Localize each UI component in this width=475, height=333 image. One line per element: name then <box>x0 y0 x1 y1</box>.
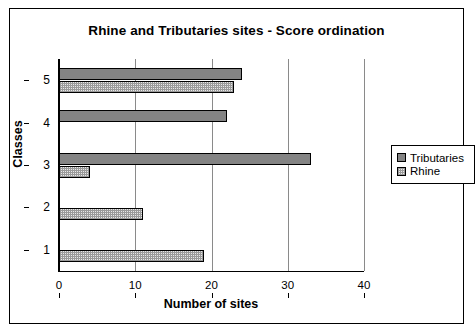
bar-tributaries-class-3 <box>59 153 311 165</box>
x-axis-label: Number of sites <box>58 297 364 311</box>
legend-swatch-tributaries-icon <box>397 153 406 162</box>
y-tick-2 <box>24 207 29 208</box>
legend-item-rhine: Rhine <box>397 165 470 177</box>
legend-label-tributaries: Tributaries <box>410 152 464 164</box>
bar-rhine-class-2 <box>59 208 143 220</box>
y-tick-label-4: 4 <box>43 116 50 130</box>
legend-label-rhine: Rhine <box>410 165 440 177</box>
y-tick-4 <box>24 123 29 124</box>
y-tick-3 <box>24 165 29 166</box>
x-tick-label-20: 20 <box>205 279 218 291</box>
y-tick-label-3: 3 <box>43 158 50 172</box>
y-tick-label-1: 1 <box>43 243 50 257</box>
chart-title: Rhine and Tributaries sites - Score ordi… <box>10 23 463 38</box>
legend-item-tributaries: Tributaries <box>397 152 470 164</box>
bar-rhine-class-5 <box>59 81 234 93</box>
y-tick-1 <box>24 250 29 251</box>
x-tick-label-30: 30 <box>281 279 294 291</box>
bar-tributaries-class-4 <box>59 110 227 122</box>
x-axis-ticks: 010203040 <box>59 271 364 293</box>
bar-tributaries-class-5 <box>59 68 242 80</box>
chart-figure: Rhine and Tributaries sites - Score ordi… <box>9 8 464 324</box>
y-tick-label-2: 2 <box>43 200 50 214</box>
legend-swatch-rhine-icon <box>397 167 406 176</box>
y-tick-5 <box>24 80 29 81</box>
plot-area: 010203040 12345 <box>58 59 364 272</box>
y-axis-ticks: 12345 <box>29 59 59 271</box>
y-tick-label-5: 5 <box>43 73 50 87</box>
x-tick-label-0: 0 <box>56 279 62 291</box>
bar-rhine-class-3 <box>59 166 90 178</box>
chart-legend: TributariesRhine <box>391 145 475 184</box>
x-tick-label-10: 10 <box>129 279 142 291</box>
bar-series-container <box>59 59 364 271</box>
y-axis-label: Classes <box>11 120 25 167</box>
x-tick-40 <box>364 293 365 298</box>
bar-rhine-class-1 <box>59 250 204 262</box>
gridline-x-40 <box>364 59 365 271</box>
x-tick-label-40: 40 <box>358 279 371 291</box>
